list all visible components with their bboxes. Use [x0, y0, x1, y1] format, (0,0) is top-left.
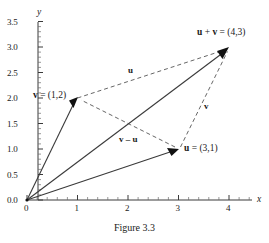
x-tick-label-0: 0	[24, 204, 28, 213]
y-axis-label: y	[37, 8, 41, 18]
segment-label-u: u	[128, 66, 133, 75]
point-label-v: v = (1,2)	[33, 91, 66, 101]
segment-label-diff-u: u	[133, 134, 138, 144]
point-label-u: u = (3,1)	[184, 144, 218, 154]
y-tick-label-2: 1.0	[7, 145, 18, 154]
solid-vectors	[27, 52, 224, 200]
y-tick-label-5: 2.5	[7, 69, 18, 78]
y-tick-label-7: 3.5	[7, 18, 18, 27]
x-tick-label-4: 4	[226, 204, 230, 213]
x-tick-label-3: 3	[176, 204, 180, 213]
y-tick-label-0: 0.0	[7, 196, 18, 205]
y-tick-label-6: 3.0	[7, 43, 18, 52]
point-label-v-value: = (1,2)	[38, 90, 66, 100]
origin-point	[25, 198, 28, 201]
segment-label-v: v	[204, 102, 209, 111]
figure-caption: Figure 3.3	[0, 222, 269, 233]
x-tick-label-1: 1	[75, 204, 79, 213]
y-tick-label-4: 2.0	[7, 94, 18, 103]
y-tick-label-3: 1.5	[7, 120, 18, 129]
arrowhead-v	[69, 97, 78, 108]
x-tick-label-2: 2	[125, 204, 129, 213]
point-label-sum-plus: +	[202, 27, 212, 37]
segment-label-diff-minus: –	[124, 134, 133, 144]
point-label-sum-value: = (4,3)	[217, 27, 245, 37]
x-axis-label: x	[257, 195, 261, 205]
point-label-u-plus-v: u + v = (4,3)	[197, 28, 245, 38]
figure-3-3: 0.0 0.5 1.0 1.5 2.0 2.5 3.0 3.5 0 1 2 3 …	[0, 0, 269, 243]
arrowhead-u-plus-v	[217, 47, 229, 59]
point-label-u-value: = (3,1)	[189, 143, 217, 153]
x-axis	[27, 195, 252, 200]
y-tick-label-1: 0.5	[7, 171, 18, 180]
dashed-segments	[78, 50, 228, 148]
segment-label-v-minus-u: v – u	[119, 135, 138, 144]
